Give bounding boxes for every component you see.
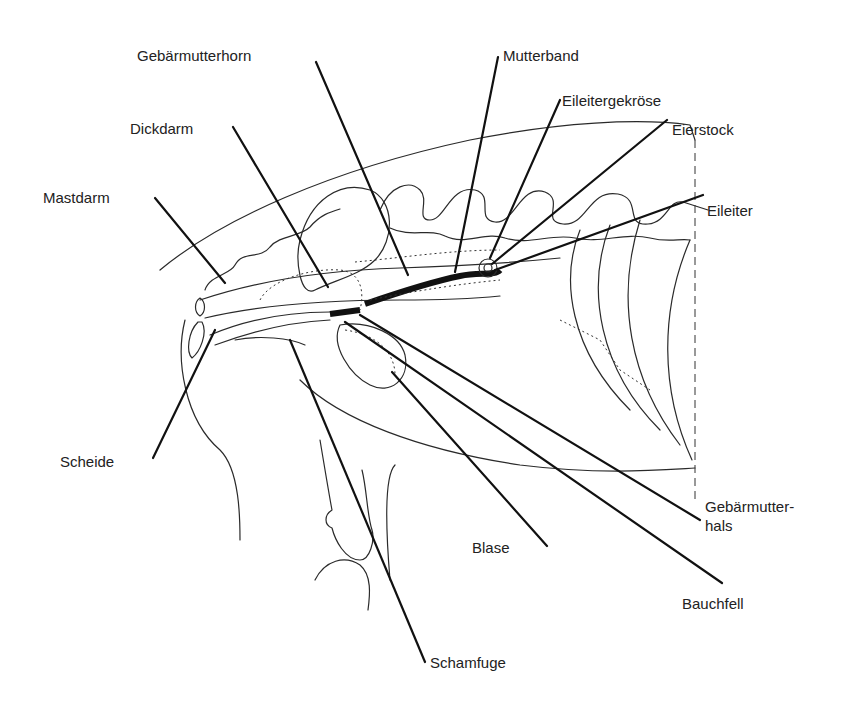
label-blase: Blase — [472, 539, 510, 557]
leader-dickdarm — [233, 127, 328, 287]
leader-schamfuge — [290, 340, 425, 662]
leader-eileitergekroese — [490, 100, 560, 258]
label-schamfuge: Schamfuge — [430, 654, 506, 672]
rib-3 — [628, 220, 680, 445]
rib-1 — [571, 230, 630, 410]
peritoneum-pelvic — [260, 270, 362, 310]
sacrum — [205, 209, 340, 290]
label-gebaermutterhorn: Gebärmutterhorn — [137, 47, 251, 65]
vagina-lower — [215, 320, 330, 345]
label-eileitergekroese: Eileitergekröse — [562, 92, 661, 110]
label-gebaermutterhals-line2: hals — [705, 517, 733, 535]
vagina-upper — [210, 312, 330, 335]
urethra — [235, 338, 305, 345]
label-eierstock: Eierstock — [672, 121, 734, 139]
knee — [315, 560, 370, 610]
label-bauchfell: Bauchfell — [682, 595, 744, 613]
anatomy-diagram: Gebärmutterhorn Mutterband Eileitergekrö… — [0, 0, 866, 717]
label-gebaermutterhals-line1: Gebärmutter- — [705, 498, 794, 516]
label-mastdarm: Mastdarm — [43, 189, 110, 207]
label-eileiter: Eileiter — [707, 202, 753, 220]
leader-bauchfell — [345, 322, 722, 583]
rib-2 — [598, 225, 660, 430]
peritoneum-upper — [355, 250, 500, 262]
uterine-horn — [365, 270, 500, 304]
vertebrae — [380, 185, 708, 224]
label-dickdarm: Dickdarm — [130, 120, 193, 138]
rib-4 — [668, 240, 692, 460]
leader-mutterband — [455, 57, 498, 272]
label-mutterband: Mutterband — [503, 47, 579, 65]
leader-eileiter — [495, 195, 703, 270]
tail-outline — [181, 320, 240, 540]
back-outline — [160, 122, 695, 270]
rib-cartilage — [560, 320, 650, 390]
belly-outline — [300, 380, 695, 471]
leader-scheide — [153, 330, 215, 458]
rectum-outline — [200, 258, 560, 300]
label-scheide: Scheide — [60, 453, 114, 471]
rectum-lower — [205, 296, 500, 318]
leader-blase — [392, 372, 547, 546]
anus — [196, 298, 205, 316]
leader-gebaermutterhorn — [316, 62, 408, 275]
leader-mastdarm — [155, 198, 225, 283]
cervix — [330, 310, 360, 314]
femur — [320, 440, 373, 560]
vulva — [189, 322, 204, 358]
thigh-front — [387, 465, 395, 580]
vertebrae-lower — [390, 228, 690, 241]
